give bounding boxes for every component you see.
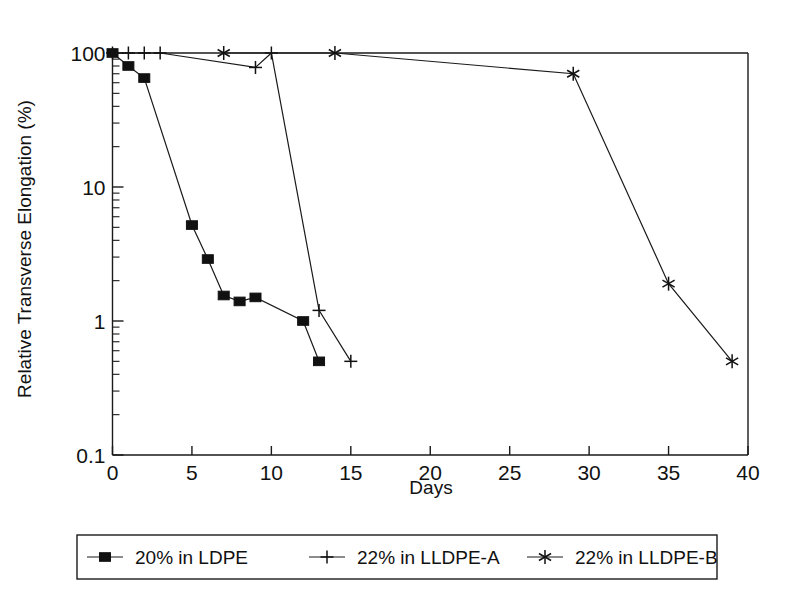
marker-filled-square [234, 297, 245, 306]
marker-filled-square [298, 317, 309, 326]
y-axis-title: Relative Transverse Elongation (%) [14, 100, 35, 398]
x-tick-label: 40 [736, 461, 759, 484]
series-line [113, 53, 320, 361]
series-2 [106, 47, 357, 368]
y-tick-label: 1 [94, 310, 106, 333]
data-series-layer [106, 46, 738, 368]
x-axis-title: Days [409, 477, 452, 498]
x-tick-label: 25 [498, 461, 521, 484]
y-axis-tick-labels: 0.1110100 [70, 42, 105, 467]
marker-plus [154, 47, 167, 60]
marker-filled-square [202, 255, 213, 264]
x-tick-label: 10 [260, 461, 283, 484]
x-axis-ticks [113, 446, 749, 455]
elongation-log-chart: 0510152025303540 0.1110100 Days Relative… [0, 0, 790, 610]
legend-entry-label: 20% in LDPE [135, 547, 248, 568]
chart-legend: 20% in LDPE22% in LLDPE-A22% in LLDPE-B [77, 535, 718, 579]
plot-frame [113, 53, 749, 455]
y-tick-label: 10 [82, 176, 105, 199]
series-1 [107, 49, 325, 366]
x-tick-label: 0 [107, 461, 119, 484]
marker-filled-square [314, 357, 325, 366]
marker-plus [122, 47, 135, 60]
series-3 [218, 46, 739, 368]
marker-filled-square [186, 221, 197, 230]
series-line [113, 53, 351, 361]
y-axis-ticks [113, 53, 124, 455]
marker-filled-square [123, 62, 134, 71]
legend-entry-label: 22% in LLDPE-B [575, 547, 718, 568]
figure-container: 0510152025303540 0.1110100 Days Relative… [0, 0, 790, 610]
x-tick-label: 5 [186, 461, 198, 484]
marker-filled-square [218, 291, 229, 300]
marker-plus [344, 355, 357, 368]
y-tick-label: 100 [70, 42, 105, 65]
y-tick-label: 0.1 [76, 444, 105, 467]
marker-filled-square [139, 74, 150, 83]
marker-filled-square [250, 293, 261, 302]
x-tick-label: 30 [577, 461, 600, 484]
x-tick-label: 15 [339, 461, 362, 484]
marker-filled-square [100, 553, 111, 562]
x-tick-label: 35 [657, 461, 680, 484]
legend-entry-label: 22% in LLDPE-A [357, 547, 500, 568]
marker-plus [313, 304, 326, 317]
marker-plus [138, 47, 151, 60]
